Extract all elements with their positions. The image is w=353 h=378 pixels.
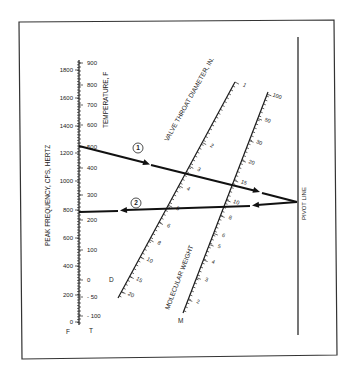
diameter-tick-label: 4 xyxy=(186,185,192,192)
molecular_weight-tick xyxy=(263,104,265,105)
temperature-tick-label: 600 xyxy=(87,122,98,128)
molecular_weight-tick-label: 15 xyxy=(240,178,248,186)
molecular_weight-tick xyxy=(208,247,210,248)
temperature-tick-label: 300 xyxy=(87,192,98,198)
frequency-tick-label: 600 xyxy=(63,235,74,241)
molecular_weight-tick xyxy=(196,279,198,280)
frequency-letter: F xyxy=(66,328,70,335)
temperature-tick-label: 200 xyxy=(87,217,98,223)
temperature-tick-label: - 50 xyxy=(87,294,98,300)
molecular-weight-scale: 2345681015203050100 xyxy=(183,91,283,313)
molecular-weight-letter: M xyxy=(178,317,183,324)
temperature-letter: T xyxy=(89,327,93,334)
molecular_weight-tick xyxy=(227,199,229,200)
temperature-tick-label: - 100 xyxy=(87,313,101,319)
path-2: 2 xyxy=(79,198,297,213)
pivot-line-label: PIVOT LINE xyxy=(301,187,307,220)
path-segment xyxy=(126,206,250,210)
molecular_weight-tick xyxy=(230,191,232,192)
molecular_weight-tick xyxy=(190,295,192,296)
molecular_weight-tick-label: 6 xyxy=(221,232,226,239)
molecular_weight-tick xyxy=(228,195,230,196)
molecular_weight-tick xyxy=(244,156,246,157)
molecular_weight-tick xyxy=(201,267,203,268)
molecular_weight-tick xyxy=(242,160,244,161)
frequency-tick-label: 800 xyxy=(63,207,74,213)
molecular_weight-tick xyxy=(265,100,267,101)
molecular_weight-tick xyxy=(256,124,258,125)
frequency-tick-label: 400 xyxy=(63,263,74,269)
molecular_weight-tick xyxy=(211,239,213,240)
molecular_weight-major-tick xyxy=(242,161,246,163)
molecular_weight-tick xyxy=(259,116,261,117)
path-segment xyxy=(79,211,118,212)
molecular_weight-tick xyxy=(188,299,190,300)
molecular_weight-tick-label: 8 xyxy=(228,214,233,221)
frequency-tick-label: 1600 xyxy=(60,95,74,101)
diameter-tick-label: 20 xyxy=(127,290,135,298)
molecular_weight-major-tick xyxy=(214,233,218,235)
molecular_weight-tick xyxy=(253,132,255,133)
molecular_weight-tick-label: 30 xyxy=(255,138,263,146)
molecular_weight-tick xyxy=(218,223,220,224)
molecular_weight-major-tick xyxy=(226,200,230,202)
molecular_weight-tick-label: 20 xyxy=(248,158,256,166)
molecular_weight-tick xyxy=(198,275,200,276)
molecular_weight-tick xyxy=(219,219,221,220)
molecular_weight-axis-line xyxy=(183,92,268,313)
molecular_weight-tick xyxy=(204,259,206,260)
molecular_weight-tick-label: 5 xyxy=(217,243,222,250)
diameter-tick-label: 15 xyxy=(135,275,143,283)
arrowhead-icon xyxy=(252,187,260,193)
frequency-axis-title: PEAK FREQUENCY, CPS, HERTZ xyxy=(44,145,52,246)
molecular_weight-tick xyxy=(239,168,241,169)
molecular_weight-tick-label: 2 xyxy=(196,298,201,305)
path-segment xyxy=(257,202,297,205)
path-number: 1 xyxy=(136,144,140,151)
molecular_weight-tick xyxy=(214,231,216,232)
molecular_weight-tick xyxy=(266,96,268,97)
temperature-tick-label: 0 xyxy=(87,277,91,283)
molecular_weight-major-tick xyxy=(249,141,253,143)
molecular_weight-tick xyxy=(222,211,224,212)
molecular_weight-tick xyxy=(207,251,209,252)
molecular_weight-tick xyxy=(193,287,195,288)
frequency-tick-label: 1200 xyxy=(60,150,74,156)
molecular_weight-tick xyxy=(247,148,249,149)
molecular_weight-tick-label: 3 xyxy=(204,276,209,283)
molecular_weight-tick xyxy=(192,291,194,292)
diameter-tick-label: 6 xyxy=(166,222,172,229)
molecular_weight-tick xyxy=(240,164,242,165)
diameter-major-tick xyxy=(150,240,154,242)
diameter-tick-label: 10 xyxy=(146,256,154,264)
diameter-tick-label: 2 xyxy=(209,142,215,149)
arrowhead-icon xyxy=(142,159,150,165)
frequency-tick-label: 1400 xyxy=(60,123,74,129)
diameter-major-tick xyxy=(235,82,239,84)
frequency-tick-label: 1800 xyxy=(60,67,74,73)
temperature-tick-label: 400 xyxy=(87,165,98,171)
molecular_weight-tick xyxy=(234,180,236,181)
temperature-tick-label: 900 xyxy=(87,60,98,66)
frequency-tick-label: 0 xyxy=(70,319,74,325)
molecular_weight-tick xyxy=(257,120,259,121)
molecular_weight-tick xyxy=(205,255,207,256)
arrowhead-icon xyxy=(252,202,259,208)
molecular_weight-major-tick xyxy=(197,278,201,280)
molecular_weight-tick xyxy=(210,243,212,244)
molecular_weight-tick xyxy=(185,307,187,308)
temperature-tick-label: 100 xyxy=(87,247,98,253)
molecular_weight-tick xyxy=(216,227,218,228)
molecular_weight-major-tick xyxy=(258,119,262,121)
molecular_weight-tick xyxy=(248,144,250,145)
path-segment xyxy=(262,193,297,202)
molecular_weight-tick xyxy=(251,136,253,137)
molecular_weight-tick-label: 4 xyxy=(211,258,216,265)
diameter-major-tick xyxy=(140,257,144,259)
molecular_weight-tick xyxy=(254,128,256,129)
molecular_weight-tick xyxy=(195,283,197,284)
frequency-temperature-axis: 1800160014001200100080060040020009008007… xyxy=(60,60,102,325)
diameter-tick-label: 1 xyxy=(242,82,248,89)
diameter-letter: D xyxy=(109,276,114,283)
diameter-major-tick xyxy=(130,276,134,278)
